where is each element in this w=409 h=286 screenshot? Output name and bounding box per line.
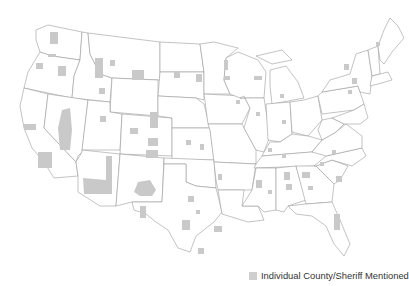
state-north-dakota [160, 42, 204, 72]
state-arizona [76, 150, 120, 206]
state-new-york [322, 50, 372, 94]
map-legend: Individual County/Sheriff Mentioned by N… [249, 270, 409, 281]
state-maine [378, 18, 404, 64]
state-wyoming [110, 78, 158, 116]
legend-label: Individual County/Sheriff Mentioned by N… [261, 270, 409, 281]
state-colorado [120, 114, 172, 156]
state-outlines [20, 18, 404, 256]
state-new-mexico [116, 154, 164, 206]
state-wisconsin [224, 52, 266, 98]
state-indiana [266, 102, 292, 142]
state-florida [288, 202, 350, 256]
us-map [0, 0, 409, 286]
state-iowa [204, 94, 250, 124]
state-kansas [172, 128, 214, 160]
state-ohio [290, 96, 322, 136]
legend-swatch [249, 272, 257, 280]
